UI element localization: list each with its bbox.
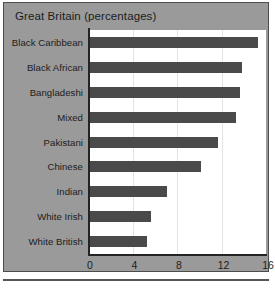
bar — [90, 236, 147, 247]
bar-row: Black African — [4, 55, 266, 80]
bar-row: Chinese — [4, 154, 266, 179]
bar-row: Pakistani — [4, 130, 266, 155]
x-tick-label: 16 — [262, 259, 274, 271]
x-axis-tick-labels: 0481216 — [4, 259, 266, 275]
bar — [90, 87, 240, 98]
x-tick-label: 0 — [87, 259, 93, 271]
bar-rows: Black CaribbeanBlack AfricanBangladeshiM… — [4, 30, 266, 254]
horizontal-rule — [3, 279, 269, 281]
x-tick-label: 12 — [218, 259, 230, 271]
bar-row: White British — [4, 229, 266, 254]
bar-row: Indian — [4, 179, 266, 204]
bar-row: White Irish — [4, 204, 266, 229]
chart-title: Great Britain (percentages) — [15, 10, 156, 22]
bar — [90, 112, 236, 123]
bar-row: Mixed — [4, 105, 266, 130]
category-label: Black Caribbean — [12, 37, 83, 48]
x-tick-label: 8 — [176, 259, 182, 271]
category-label: Bangladeshi — [30, 87, 83, 98]
bar-row: Black Caribbean — [4, 30, 266, 55]
bar — [90, 161, 201, 172]
bar — [90, 211, 151, 222]
bar — [90, 62, 242, 73]
category-label: Black African — [27, 62, 83, 73]
category-label: White British — [29, 236, 84, 247]
category-label: Indian — [57, 186, 83, 197]
category-label: Mixed — [57, 112, 83, 123]
bar — [90, 186, 167, 197]
bar — [90, 137, 218, 148]
x-tick-label: 4 — [132, 259, 138, 271]
bar-row: Bangladeshi — [4, 80, 266, 105]
chart-panel: Great Britain (percentages) Black Caribb… — [3, 2, 269, 272]
category-label: Chinese — [47, 161, 83, 172]
x-axis-line — [88, 254, 267, 256]
category-label: White Irish — [37, 211, 83, 222]
category-label: Pakistani — [44, 137, 83, 148]
bar — [90, 37, 258, 48]
